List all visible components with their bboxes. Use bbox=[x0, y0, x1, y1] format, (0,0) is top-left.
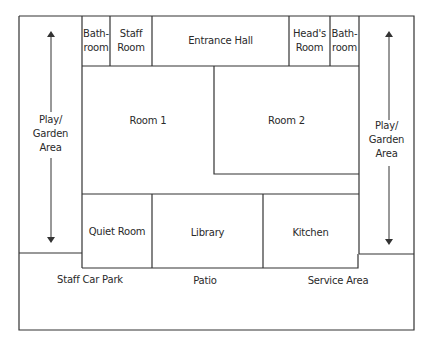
room-label-bathroom-left: Bath- room bbox=[82, 27, 110, 55]
area-label-staff-car-park: Staff Car Park bbox=[50, 273, 130, 287]
room-label-kitchen: Kitchen bbox=[263, 226, 358, 240]
area-label-patio: Patio bbox=[180, 274, 230, 288]
room-label-room-2: Room 2 bbox=[214, 114, 359, 128]
room-label-heads-room: Head's Room bbox=[289, 27, 330, 55]
lower-block-bottom-wall bbox=[82, 254, 358, 268]
room-label-room-1: Room 1 bbox=[82, 114, 214, 128]
room-label-library: Library bbox=[152, 226, 263, 240]
room-label-staff-room: Staff Room bbox=[110, 27, 152, 55]
area-label-play-garden-left: Play/ Garden Area bbox=[19, 113, 82, 155]
floor-plan-drawing bbox=[0, 0, 437, 345]
room-label-bathroom-right: Bath- room bbox=[330, 27, 359, 55]
area-label-play-garden-right: Play/ Garden Area bbox=[359, 119, 414, 161]
room-label-quiet-room: Quiet Room bbox=[82, 225, 152, 239]
area-label-service-area: Service Area bbox=[298, 274, 378, 288]
room-label-entrance-hall: Entrance Hall bbox=[152, 34, 289, 48]
